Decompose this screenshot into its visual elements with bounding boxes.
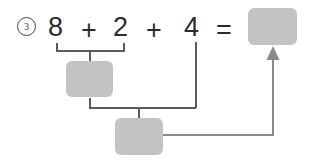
answer-box[interactable] bbox=[248, 8, 297, 45]
bracket-second-pair bbox=[90, 98, 196, 119]
second-partial-sum-box[interactable] bbox=[115, 118, 163, 155]
first-partial-sum-box[interactable] bbox=[66, 61, 113, 97]
bracket-first-pair bbox=[57, 43, 124, 62]
worksheet-problem: 3 8 + 2 + 4 = bbox=[0, 0, 316, 160]
answer-arrow bbox=[163, 46, 280, 135]
